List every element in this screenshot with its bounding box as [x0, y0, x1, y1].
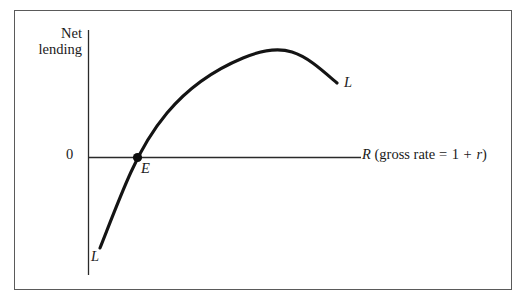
curve-label-upper-right: L: [344, 75, 352, 91]
x-axis-label: R (gross rate = 1 + r): [362, 147, 487, 163]
x-axis-symbol: R: [362, 146, 371, 162]
y-axis-label-line1: Net: [18, 26, 82, 42]
curve-label-lower-left: L: [91, 249, 99, 265]
figure-container: Net lending 0 E L L R (gross rate = 1 + …: [0, 0, 525, 306]
y-axis-label-line2: lending: [18, 42, 82, 58]
y-axis-zero-tick-label: 0: [66, 147, 73, 163]
x-axis-label-open: (gross rate: [371, 146, 439, 162]
x-axis-label-equals: = 1 +: [439, 146, 476, 162]
equilibrium-point-label: E: [141, 161, 150, 177]
x-axis-label-close: ): [482, 146, 487, 162]
net-lending-curve: [100, 50, 337, 248]
y-axis-label: Net lending: [18, 26, 82, 57]
